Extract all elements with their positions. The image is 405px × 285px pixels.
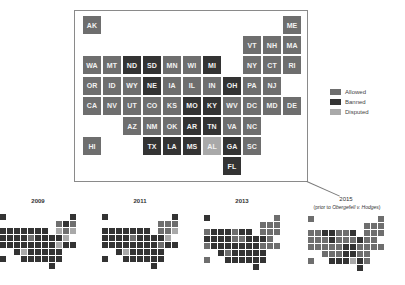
small-tile-ne xyxy=(329,237,335,243)
state-tile-nd: ND xyxy=(123,56,141,74)
small-tile-ak xyxy=(102,214,108,220)
state-tile-nj: NJ xyxy=(263,77,281,95)
small-tile-mn xyxy=(28,228,34,234)
small-tile-ia xyxy=(28,235,34,241)
small-tile-tn xyxy=(350,251,356,257)
small-tile-ut xyxy=(14,242,20,248)
small-tile-nj xyxy=(371,237,377,243)
state-tile-ks: KS xyxy=(163,97,181,115)
state-tile-ma: MA xyxy=(283,36,301,54)
small-tile-ar xyxy=(35,249,41,255)
small-tile-il xyxy=(239,236,245,242)
small-tile-ga xyxy=(357,258,363,264)
legend-swatch-banned xyxy=(330,99,341,105)
small-tile-dc xyxy=(56,242,62,248)
small-tile-id xyxy=(109,235,115,241)
small-tile-la xyxy=(336,258,342,264)
small-tile-nd xyxy=(14,228,20,234)
small-tile-wa xyxy=(102,228,108,234)
small-tile-sc xyxy=(364,258,370,264)
small-tile-ia xyxy=(336,237,342,243)
small-tile-me xyxy=(172,214,178,220)
small-tile-mn xyxy=(232,229,238,235)
small-tile-ar xyxy=(239,250,245,256)
legend-item-allowed: Allowed xyxy=(330,87,369,96)
small-tile-nj xyxy=(165,235,171,241)
small-tile-or xyxy=(0,235,6,241)
small-tile-wi xyxy=(35,228,41,234)
small-map-title-2013: 2013 xyxy=(204,198,280,204)
small-tile-ma xyxy=(70,221,76,227)
small-tile-id xyxy=(7,235,13,241)
small-tile-nv xyxy=(211,243,217,249)
small-tile-ms xyxy=(35,256,41,262)
small-tile-me xyxy=(274,215,280,221)
state-tile-de: DE xyxy=(283,97,301,115)
small-tile-ms xyxy=(137,256,143,262)
state-tile-wi: WI xyxy=(183,56,201,74)
small-tile-ks xyxy=(28,242,34,248)
small-tile-ky xyxy=(350,244,356,250)
state-tile-vt: VT xyxy=(243,36,261,54)
small-tile-mt xyxy=(315,230,321,236)
small-tile-ne xyxy=(225,236,231,242)
small-tile-nh xyxy=(371,223,377,229)
state-tile-mo: MO xyxy=(183,97,201,115)
small-tile-nm xyxy=(21,249,27,255)
small-tile-md xyxy=(267,243,273,249)
small-tile-va xyxy=(253,250,259,256)
state-tile-il: IL xyxy=(183,77,201,95)
small-tile-me xyxy=(70,214,76,220)
small-tile-wi xyxy=(137,228,143,234)
small-tile-pa xyxy=(364,237,370,243)
small-tile-co xyxy=(21,242,27,248)
small-tile-ms xyxy=(343,258,349,264)
small-tile-hi xyxy=(204,257,210,263)
small-map-title-2011: 2011 xyxy=(102,198,178,204)
small-tile-nd xyxy=(218,229,224,235)
state-tile-ri: RI xyxy=(283,56,301,74)
small-tile-al xyxy=(144,256,150,262)
state-tile-wa: WA xyxy=(83,56,101,74)
small-tile-mo xyxy=(35,242,41,248)
state-tile-hi: HI xyxy=(83,137,101,155)
small-tile-sc xyxy=(56,256,62,262)
small-tile-nv xyxy=(315,244,321,250)
small-tile-sd xyxy=(225,229,231,235)
small-tile-co xyxy=(225,243,231,249)
small-tile-ok xyxy=(130,249,136,255)
small-tile-sd xyxy=(329,230,335,236)
small-tile-ri xyxy=(172,228,178,234)
small-tile-de xyxy=(70,242,76,248)
small-tile-ut xyxy=(322,244,328,250)
small-tile-dc xyxy=(158,242,164,248)
small-tile-wv xyxy=(49,242,55,248)
small-tile-sd xyxy=(123,228,129,234)
state-tile-mi: MI xyxy=(203,56,221,74)
small-tile-fl xyxy=(151,263,157,269)
small-tile-ne xyxy=(21,235,27,241)
state-tile-ny: NY xyxy=(243,56,261,74)
state-tile-la: LA xyxy=(163,137,181,155)
small-tile-de xyxy=(172,242,178,248)
small-tile-pa xyxy=(158,235,164,241)
small-tile-ia xyxy=(130,235,136,241)
small-tile-ky xyxy=(144,242,150,248)
small-tile-ga xyxy=(151,256,157,262)
small-tile-in xyxy=(246,236,252,242)
state-tile-ne: NE xyxy=(143,77,161,95)
state-tile-mn: MN xyxy=(163,56,181,74)
legend-label: Allowed xyxy=(345,89,366,95)
small-tile-pa xyxy=(56,235,62,241)
small-tile-vt xyxy=(260,222,266,228)
small-tile-me xyxy=(378,216,384,222)
small-tile-il xyxy=(137,235,143,241)
small-tile-il xyxy=(343,237,349,243)
state-tile-ga: GA xyxy=(223,137,241,155)
small-tile-va xyxy=(151,249,157,255)
small-tile-nm xyxy=(123,249,129,255)
small-tile-or xyxy=(308,237,314,243)
small-tile-ut xyxy=(116,242,122,248)
small-tile-fl xyxy=(49,263,55,269)
small-tile-nh xyxy=(63,221,69,227)
